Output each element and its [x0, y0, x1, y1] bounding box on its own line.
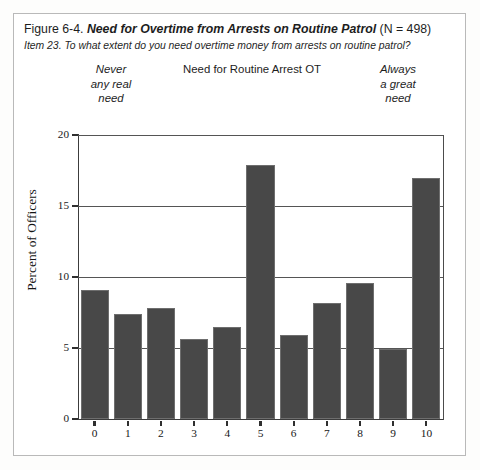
x-axis-tick [160, 421, 162, 426]
y-axis-title: Percent of Officers [24, 160, 40, 320]
y-axis-tick-label: 20 [43, 128, 69, 140]
y-axis-tick [72, 418, 78, 420]
bar [412, 178, 440, 419]
x-axis-tick-label: 4 [215, 427, 239, 439]
y-axis-tick [72, 205, 78, 207]
y-axis-tick-label: 0 [43, 412, 69, 424]
x-axis-tick [359, 421, 361, 426]
y-axis-tick [72, 134, 78, 136]
plot-right-border [443, 135, 444, 420]
x-axis-tick-label: 7 [315, 427, 339, 439]
x-axis-tick-label: 10 [414, 427, 438, 439]
x-axis-tick [293, 421, 295, 426]
page-canvas: Figure 6-4. Need for Overtime from Arres… [0, 0, 480, 470]
bar [346, 283, 374, 419]
y-axis-tick-label: 5 [43, 341, 69, 353]
x-axis-tick-label: 2 [149, 427, 173, 439]
x-axis-tick-label: 1 [116, 427, 140, 439]
bar [180, 339, 208, 419]
bar [313, 303, 341, 419]
x-axis-tick-label: 9 [381, 427, 405, 439]
x-axis-tick [93, 421, 95, 426]
x-axis-tick [326, 421, 328, 426]
bar [81, 290, 109, 419]
y-axis-tick [72, 276, 78, 278]
x-axis-tick [425, 421, 427, 426]
y-axis-tick-label: 10 [43, 270, 69, 282]
x-axis-tick-label: 6 [282, 427, 306, 439]
y-axis-tick [72, 347, 78, 349]
gridline [78, 135, 443, 136]
bar [246, 165, 274, 419]
x-axis-tick-label: 8 [348, 427, 372, 439]
bar [147, 308, 175, 419]
x-axis-tick-label: 3 [182, 427, 206, 439]
bar-chart: Percent of Officers 05101520012345678910 [0, 0, 480, 470]
bar [379, 349, 407, 419]
bar [114, 314, 142, 419]
bar [213, 327, 241, 419]
x-axis-tick [193, 421, 195, 426]
x-axis-tick [127, 421, 129, 426]
x-axis-tick [226, 421, 228, 426]
x-axis-tick-label: 5 [249, 427, 273, 439]
x-axis-tick [392, 421, 394, 426]
x-axis-tick-label: 0 [83, 427, 107, 439]
y-axis-tick-label: 15 [43, 199, 69, 211]
plot-area [78, 135, 443, 419]
bar [280, 335, 308, 419]
x-axis-tick [259, 421, 261, 426]
